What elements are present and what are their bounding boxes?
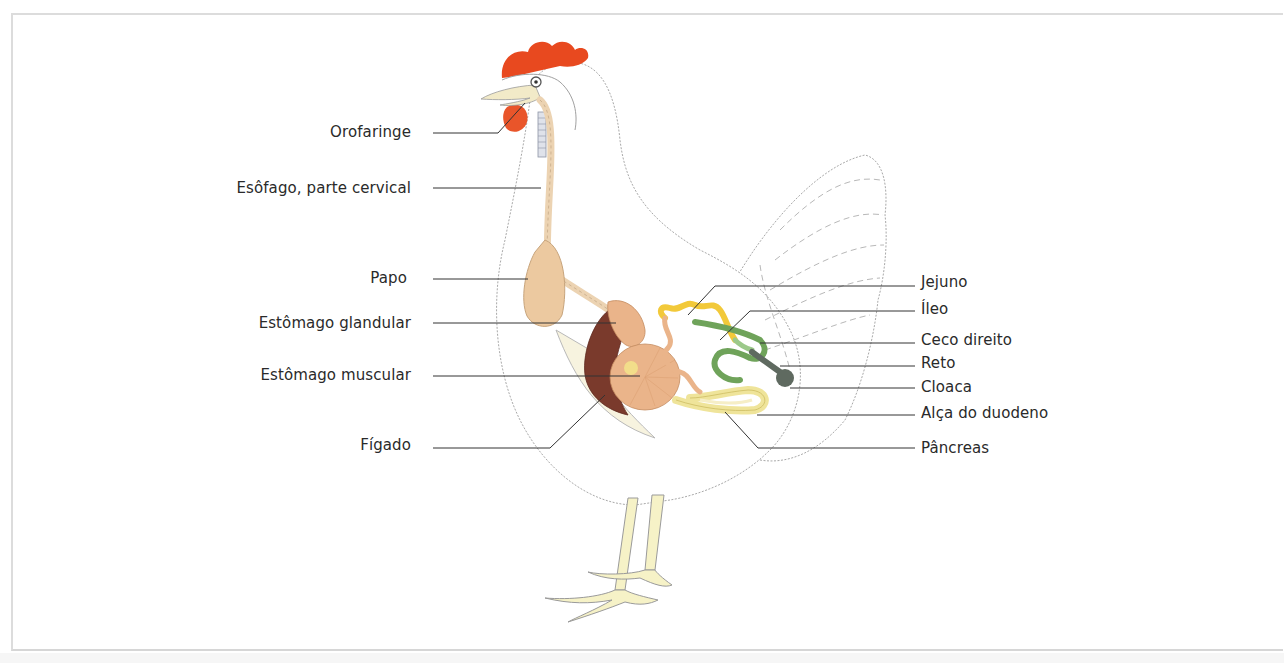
label-figado: Fígado: [360, 436, 411, 454]
label-ileo: Íleo: [921, 300, 948, 318]
label-orofaringe: Orofaringe: [330, 123, 411, 141]
label-estomago-muscular: Estômago muscular: [260, 366, 411, 384]
label-cloaca: Cloaca: [921, 378, 972, 396]
legs: [545, 495, 672, 622]
trachea: [538, 112, 546, 157]
chicken-illustration: [0, 0, 1284, 663]
label-pancreas: Pâncreas: [921, 439, 989, 457]
label-ceco-direito: Ceco direito: [921, 331, 1012, 349]
label-jejuno: Jejuno: [921, 273, 968, 291]
label-alca-duodeno: Alça do duodeno: [921, 404, 1048, 422]
beak: [481, 85, 540, 106]
label-reto: Reto: [921, 354, 955, 372]
cloaca: [776, 369, 794, 387]
label-esofago: Esôfago, parte cervical: [236, 179, 411, 197]
label-estomago-glandular: Estômago glandular: [259, 314, 411, 332]
wattle: [503, 105, 527, 132]
label-papo: Papo: [370, 269, 407, 287]
